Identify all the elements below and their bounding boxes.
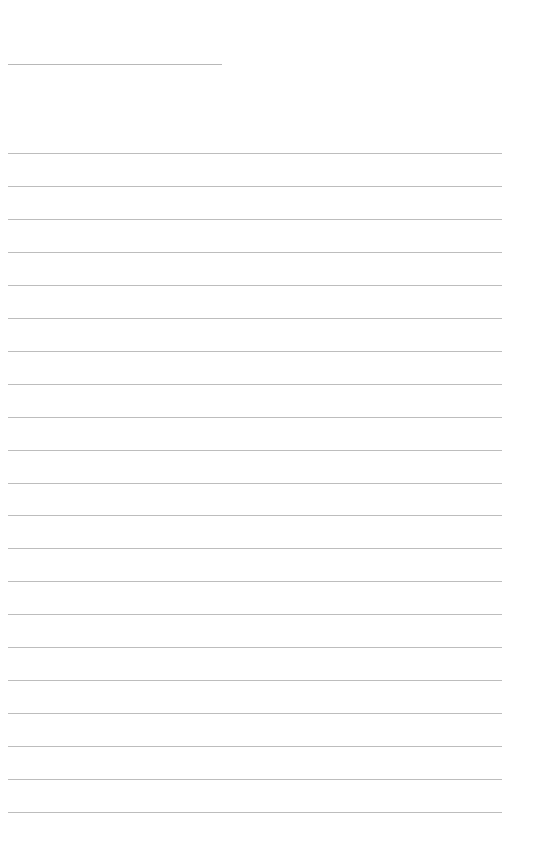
- ruled-line: [8, 252, 502, 253]
- ruled-line: [8, 384, 502, 385]
- title-line: [8, 64, 222, 65]
- ruled-line: [8, 450, 502, 451]
- ruled-line: [8, 285, 502, 286]
- ruled-line: [8, 779, 502, 780]
- ruled-line: [8, 153, 502, 154]
- ruled-line: [8, 647, 502, 648]
- ruled-line: [8, 515, 502, 516]
- ruled-line: [8, 746, 502, 747]
- ruled-line: [8, 483, 502, 484]
- ruled-line: [8, 713, 502, 714]
- lined-page: [0, 0, 535, 862]
- ruled-line: [8, 614, 502, 615]
- ruled-line: [8, 219, 502, 220]
- ruled-line: [8, 680, 502, 681]
- ruled-line: [8, 581, 502, 582]
- ruled-line: [8, 351, 502, 352]
- ruled-line: [8, 417, 502, 418]
- ruled-line: [8, 548, 502, 549]
- ruled-line: [8, 186, 502, 187]
- ruled-line: [8, 812, 502, 813]
- ruled-line: [8, 318, 502, 319]
